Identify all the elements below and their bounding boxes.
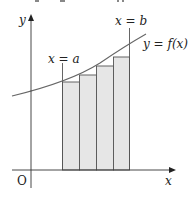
rectangle-2 [80, 75, 97, 170]
rectangle-4 [114, 57, 130, 170]
rectangle-1 [63, 82, 80, 170]
y-axis-label: y [18, 13, 26, 27]
rectangle-3 [97, 66, 114, 170]
clipped-top-text [35, 0, 124, 2]
riemann-diagram: y x O x = a x = b y = f(x) [0, 0, 191, 197]
origin-label: O [17, 174, 27, 188]
left-bound-label: x = a [48, 52, 80, 66]
x-axis-label: x [165, 174, 172, 188]
riemann-rectangles [63, 57, 130, 170]
y-axis-arrow-icon [28, 14, 34, 21]
curve-label: y = f(x) [142, 37, 188, 51]
right-bound-label: x = b [115, 14, 147, 28]
x-axis-arrow-icon [169, 167, 176, 173]
